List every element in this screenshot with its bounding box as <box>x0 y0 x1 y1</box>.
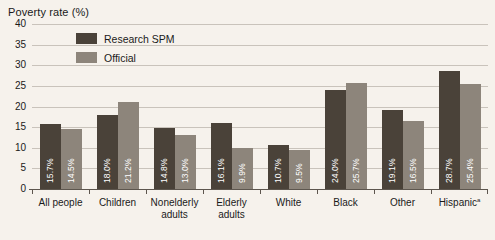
x-category-label: Black <box>317 197 374 209</box>
x-category-footnote-marker: a <box>477 197 480 203</box>
bar-value-label: 24.0% <box>331 158 340 183</box>
bar-official[interactable]: 16.5% <box>403 121 424 189</box>
bar-value-label: 9.9% <box>238 163 247 183</box>
bar-value-label: 16.5% <box>409 158 418 183</box>
bar-research-spm[interactable]: 19.1% <box>382 110 403 189</box>
bar-research-spm[interactable]: 10.7% <box>268 145 289 189</box>
legend-item[interactable]: Research SPM <box>76 30 216 47</box>
bar-value-label: 14.5% <box>67 158 76 183</box>
y-tick-label-30: 30 <box>15 60 26 70</box>
bar-research-spm[interactable]: 16.1% <box>211 123 232 189</box>
x-axis-tick <box>203 189 204 194</box>
y-tick-label-20: 20 <box>15 102 26 112</box>
bar-official[interactable]: 13.0% <box>175 135 196 189</box>
y-tick-label-40: 40 <box>15 19 26 29</box>
y-tick-label-35: 35 <box>15 40 26 50</box>
y-tick-label-10: 10 <box>15 143 26 153</box>
x-category-label-line1: Other <box>374 197 431 209</box>
x-category-label: Hispanica <box>431 197 488 209</box>
x-category-label: Children <box>89 197 146 209</box>
bar-value-label: 14.8% <box>160 158 169 183</box>
bar-research-spm[interactable]: 18.0% <box>97 115 118 189</box>
bar-group: 24.0%25.7% <box>317 24 374 189</box>
bar-group: 10.7%9.5% <box>260 24 317 189</box>
bar-value-label: 28.7% <box>445 158 454 183</box>
x-category-label: White <box>260 197 317 209</box>
bar-group: 19.1%16.5% <box>374 24 431 189</box>
bar-value-label: 13.0% <box>181 158 190 183</box>
legend-swatch-icon <box>76 52 97 63</box>
chart-legend: Research SPMOfficial <box>76 30 216 68</box>
x-axis-tick <box>260 189 261 194</box>
bar-value-label: 21.2% <box>124 158 133 183</box>
y-tick-label-0: 0 <box>20 184 26 194</box>
x-axis: All peopleChildrenNonelderlyadultsElderl… <box>32 189 488 239</box>
bar-value-label: 15.7% <box>46 158 55 183</box>
x-category-label-line1: Children <box>89 197 146 209</box>
y-tick-label-5: 5 <box>20 163 26 173</box>
bar-research-spm[interactable]: 28.7% <box>439 71 460 189</box>
x-axis-tick <box>431 189 432 194</box>
x-category-label-line1: Hispanica <box>431 197 488 209</box>
bar-value-label: 19.1% <box>388 158 397 183</box>
x-category-label: Other <box>374 197 431 209</box>
x-category-label-line1: Nonelderly <box>146 197 203 209</box>
x-category-label-line1: Elderly <box>203 197 260 209</box>
bar-value-label: 25.7% <box>352 158 361 183</box>
x-category-label-line1: Black <box>317 197 374 209</box>
x-category-label: Nonelderlyadults <box>146 197 203 220</box>
bar-official[interactable]: 25.7% <box>346 83 367 189</box>
x-axis-tick <box>146 189 147 194</box>
x-axis-tick <box>32 189 33 194</box>
bar-value-label: 10.7% <box>274 158 283 183</box>
x-axis-tick <box>317 189 318 194</box>
bar-value-label: 16.1% <box>217 158 226 183</box>
x-category-label-line2: adults <box>203 209 260 221</box>
legend-item-label: Research SPM <box>104 33 175 45</box>
bar-value-label: 25.4% <box>466 158 475 183</box>
legend-item-label: Official <box>104 52 136 64</box>
x-category-label: All people <box>32 197 89 209</box>
x-axis-tick <box>374 189 375 194</box>
x-category-label-line1: White <box>260 197 317 209</box>
bar-official[interactable]: 14.5% <box>61 129 82 189</box>
bar-group: 28.7%25.4% <box>431 24 488 189</box>
x-category-label-line1: All people <box>32 197 89 209</box>
bar-official[interactable]: 9.5% <box>289 150 310 189</box>
x-category-label: Elderlyadults <box>203 197 260 220</box>
y-axis: 0510152025303540 <box>0 24 30 189</box>
y-tick-label-25: 25 <box>15 81 26 91</box>
bar-research-spm[interactable]: 14.8% <box>154 128 175 189</box>
legend-item[interactable]: Official <box>76 49 216 66</box>
poverty-rate-bar-chart: Poverty rate (%) 0510152025303540 15.7%1… <box>0 0 495 240</box>
legend-swatch-icon <box>76 33 97 44</box>
x-axis-tick <box>487 189 488 194</box>
x-axis-tick <box>89 189 90 194</box>
bar-research-spm[interactable]: 24.0% <box>325 90 346 189</box>
bar-official[interactable]: 25.4% <box>460 84 481 189</box>
bar-value-label: 18.0% <box>103 158 112 183</box>
bar-research-spm[interactable]: 15.7% <box>40 124 61 189</box>
bar-official[interactable]: 21.2% <box>118 102 139 189</box>
x-category-label-line2: adults <box>146 209 203 221</box>
y-tick-label-15: 15 <box>15 122 26 132</box>
bar-official[interactable]: 9.9% <box>232 148 253 189</box>
bar-value-label: 9.5% <box>295 163 304 183</box>
